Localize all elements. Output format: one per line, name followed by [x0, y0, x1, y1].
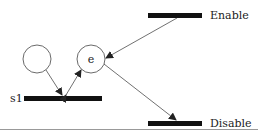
arc-p1-to-s1 — [46, 70, 62, 95]
transition-s1 — [24, 96, 102, 101]
place-e-label: e — [88, 53, 95, 66]
place-p1 — [23, 45, 51, 73]
transition-disable — [148, 121, 202, 126]
transition-enable-label: Enable — [210, 9, 249, 22]
petri-net-diagram: e s1 Enable Disable — [0, 0, 258, 132]
transition-s1-label: s1 — [10, 92, 23, 105]
arc-enable-to-e — [106, 18, 177, 58]
arc-e-to-disable — [104, 64, 176, 120]
transition-disable-label: Disable — [210, 117, 252, 130]
transition-enable — [148, 13, 202, 18]
arc-s1-to-e — [66, 70, 81, 95]
